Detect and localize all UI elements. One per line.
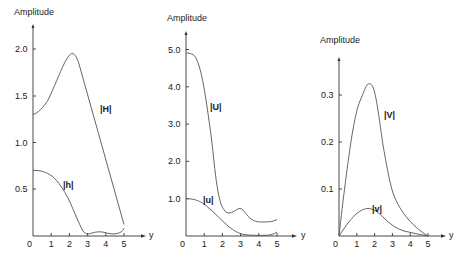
x-axis-title: y bbox=[449, 230, 454, 240]
y-tick-label: 0.2 bbox=[321, 137, 334, 147]
x-tick-label: 3 bbox=[390, 239, 395, 249]
y-axis-arrow-icon bbox=[185, 31, 188, 35]
x-tick-label: 4 bbox=[103, 239, 108, 249]
curve-H-upper bbox=[33, 54, 124, 225]
curve-h-lower bbox=[33, 170, 124, 234]
x-tick-label: 5 bbox=[275, 239, 280, 249]
y-tick-label: 0.1 bbox=[321, 184, 334, 194]
curve-label-v: |v| bbox=[372, 204, 382, 214]
y-axis-title: Amplitude bbox=[320, 35, 360, 45]
figure-canvas: Amplitude y 0.5 1.0 1.5 2.0 0 1 2 3 4 5 … bbox=[0, 0, 463, 259]
curve-label-h: |h| bbox=[63, 180, 74, 190]
x-tick-label: 1 bbox=[354, 239, 359, 249]
x-tick-label: 4 bbox=[256, 239, 261, 249]
y-tick-label: 1.0 bbox=[15, 138, 28, 148]
curve-label-V: |V| bbox=[384, 110, 395, 120]
y-tick-label: 1.5 bbox=[15, 91, 28, 101]
x-tick-label: 3 bbox=[238, 239, 243, 249]
x-tick-label: 2 bbox=[372, 239, 377, 249]
panel-h: Amplitude y 0.5 1.0 1.5 2.0 0 1 2 3 4 5 … bbox=[14, 7, 154, 249]
x-tick-label: 2 bbox=[220, 239, 225, 249]
y-axis-arrow-icon bbox=[32, 24, 35, 28]
origin-label: 0 bbox=[333, 239, 338, 249]
y-tick-label: 4.0 bbox=[168, 82, 181, 92]
x-tick-label: 5 bbox=[426, 239, 431, 249]
panel-v: Amplitude y 0.1 0.2 0.3 0 1 2 3 4 5 |V| … bbox=[320, 35, 454, 249]
x-tick-label: 2 bbox=[67, 239, 72, 249]
origin-label: 0 bbox=[180, 239, 185, 249]
y-axis-title: Amplitude bbox=[14, 7, 54, 17]
x-axis-title: y bbox=[301, 230, 306, 240]
x-tick-label: 1 bbox=[202, 239, 207, 249]
x-tick-label: 5 bbox=[122, 239, 127, 249]
x-axis-arrow-icon bbox=[141, 234, 146, 237]
curve-label-H: |H| bbox=[100, 104, 112, 114]
curve-label-U: |U| bbox=[210, 102, 222, 112]
y-tick-label: 2.0 bbox=[15, 44, 28, 54]
y-tick-label: 0.3 bbox=[321, 90, 334, 100]
x-tick-label: 4 bbox=[408, 239, 413, 249]
x-axis-arrow-icon bbox=[441, 234, 446, 237]
curve-u-lower bbox=[186, 199, 277, 236]
y-tick-label: 3.0 bbox=[168, 119, 181, 129]
y-tick-label: 5.0 bbox=[168, 45, 181, 55]
x-axis-title: y bbox=[149, 230, 154, 240]
y-tick-label: 0.5 bbox=[15, 184, 28, 194]
panel-u: Amplitude y 1.0 2.0 3.0 4.0 5.0 0 1 2 3 … bbox=[167, 13, 306, 249]
origin-label: 0 bbox=[27, 239, 32, 249]
curve-V-upper bbox=[339, 84, 428, 236]
curve-label-u: |u| bbox=[203, 195, 214, 205]
curve-v-lower bbox=[339, 209, 428, 237]
y-axis-arrow-icon bbox=[338, 57, 341, 61]
y-axis-title: Amplitude bbox=[167, 13, 207, 23]
x-axis-arrow-icon bbox=[292, 234, 297, 237]
x-tick-label: 3 bbox=[85, 239, 90, 249]
y-tick-label: 2.0 bbox=[168, 156, 181, 166]
x-tick-label: 1 bbox=[49, 239, 54, 249]
y-tick-label: 1.0 bbox=[168, 194, 181, 204]
curve-U-upper bbox=[186, 53, 277, 222]
